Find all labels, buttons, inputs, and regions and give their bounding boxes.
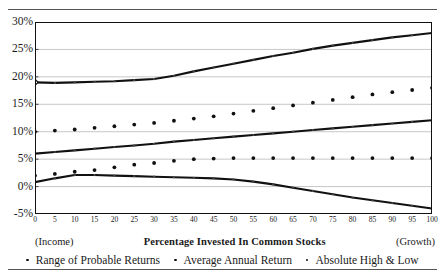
y-tick-label: 25% bbox=[1, 43, 33, 55]
x-tick-label: 55 bbox=[242, 216, 264, 224]
x-tick-label: 10 bbox=[64, 216, 86, 224]
bottom-horizontal-rule bbox=[8, 269, 437, 270]
top-horizontal-rule bbox=[8, 9, 437, 10]
x-axis-ticks: 0510152025303540455055606570758085909510… bbox=[0, 216, 445, 230]
legend-item: Average Annual Return bbox=[174, 254, 292, 266]
x-tick-label: 40 bbox=[183, 216, 205, 224]
x-tick-label: 65 bbox=[282, 216, 304, 224]
x-tick-label: 50 bbox=[223, 216, 245, 224]
x-tick-label: 25 bbox=[123, 216, 145, 224]
x-tick-label: 0 bbox=[24, 216, 46, 224]
x-axis-left-paren: (Income) bbox=[35, 236, 73, 247]
dot-icon bbox=[174, 259, 177, 262]
legend-label: Average Annual Return bbox=[184, 254, 292, 266]
x-tick-label: 45 bbox=[203, 216, 225, 224]
y-tick-label: 10% bbox=[1, 126, 33, 138]
legend-label: Range of Probable Returns bbox=[36, 254, 160, 266]
y-tick-label: 5% bbox=[1, 153, 33, 165]
x-tick-label: 20 bbox=[103, 216, 125, 224]
x-axis-right-paren: (Growth) bbox=[396, 236, 435, 247]
legend-item: Range of Probable Returns bbox=[26, 254, 160, 266]
x-tick-label: 75 bbox=[322, 216, 344, 224]
x-tick-label: 95 bbox=[401, 216, 423, 224]
x-tick-label: 35 bbox=[163, 216, 185, 224]
legend-item: Absolute High & Low bbox=[306, 254, 419, 266]
x-tick-label: 80 bbox=[342, 216, 364, 224]
y-axis-ticks: 30%25%20%15%10%5%0%-5% bbox=[0, 0, 33, 240]
dot-icon bbox=[306, 259, 309, 262]
x-axis-title: Percentage Invested In Common Stocks bbox=[144, 236, 326, 247]
x-tick-label: 90 bbox=[381, 216, 403, 224]
x-tick-label: 30 bbox=[143, 216, 165, 224]
plot-area bbox=[35, 22, 432, 214]
y-tick-label: 0% bbox=[1, 181, 33, 193]
x-tick-label: 15 bbox=[84, 216, 106, 224]
x-tick-label: 100 bbox=[421, 216, 443, 224]
x-tick-label: 5 bbox=[44, 216, 66, 224]
x-tick-label: 85 bbox=[361, 216, 383, 224]
y-tick-label: 30% bbox=[1, 16, 33, 28]
x-tick-label: 60 bbox=[262, 216, 284, 224]
chart-legend: Range of Probable ReturnsAverage Annual … bbox=[0, 252, 445, 268]
dot-icon bbox=[26, 259, 29, 262]
axis-title-row: (Income) Percentage Invested In Common S… bbox=[35, 234, 435, 248]
plot-border bbox=[35, 22, 432, 214]
legend-label: Absolute High & Low bbox=[315, 254, 418, 266]
x-tick-label: 70 bbox=[302, 216, 324, 224]
y-tick-label: 15% bbox=[1, 98, 33, 110]
y-tick-label: 20% bbox=[1, 71, 33, 83]
figure-container: 30%25%20%15%10%5%0%-5% 05101520253035404… bbox=[0, 0, 445, 279]
